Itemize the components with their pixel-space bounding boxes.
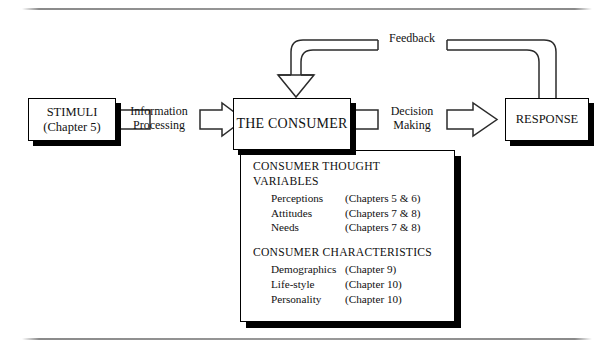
label-info-line2: Processing xyxy=(133,118,185,132)
item-name: Attitudes xyxy=(271,206,345,221)
label-decision-line2: Making xyxy=(393,118,430,132)
list-item: Life-style (Chapter 10) xyxy=(271,277,454,292)
label-information-processing: Information Processing xyxy=(122,104,196,133)
node-the-consumer-label: THE CONSUMER xyxy=(237,116,348,133)
label-feedback: Feedback xyxy=(381,31,443,45)
diagram-canvas: STIMULI (Chapter 5) THE CONSUMER RESPONS… xyxy=(0,0,610,350)
node-stimuli[interactable]: STIMULI (Chapter 5) xyxy=(28,98,116,141)
list-item: Perceptions (Chapters 5 & 6) xyxy=(271,191,454,206)
item-chapters: (Chapters 5 & 6) xyxy=(345,191,421,206)
list-item: Needs (Chapters 7 & 8) xyxy=(271,220,454,235)
item-name: Needs xyxy=(271,220,345,235)
label-decision-making: Decision Making xyxy=(381,104,443,133)
node-stimuli-chapter: (Chapter 5) xyxy=(43,120,100,135)
section-thought-variables-title-line1: CONSUMER THOUGHT xyxy=(253,160,454,175)
item-chapters: (Chapter 10) xyxy=(345,277,402,292)
section-spacer xyxy=(241,235,454,246)
node-response-label: RESPONSE xyxy=(516,112,579,127)
section-characteristics-title: CONSUMER CHARACTERISTICS xyxy=(253,246,454,261)
item-chapters: (Chapters 7 & 8) xyxy=(345,220,421,235)
node-the-consumer[interactable]: THE CONSUMER xyxy=(233,98,351,150)
item-chapters: (Chapter 9) xyxy=(345,262,396,277)
list-item: Personality (Chapter 10) xyxy=(271,292,454,307)
item-name: Demographics xyxy=(271,262,345,277)
list-item: Demographics (Chapter 9) xyxy=(271,262,454,277)
item-name: Perceptions xyxy=(271,191,345,206)
section-thought-variables-title-line2: VARIABLES xyxy=(253,175,454,190)
consumer-detail-panel[interactable]: CONSUMER THOUGHT VARIABLES Perceptions (… xyxy=(240,150,455,322)
feedback-arrow xyxy=(278,40,556,98)
node-response[interactable]: RESPONSE xyxy=(505,98,589,141)
label-info-line1: Information xyxy=(130,104,187,118)
list-item: Attitudes (Chapters 7 & 8) xyxy=(271,206,454,221)
node-stimuli-title: STIMULI xyxy=(43,105,100,120)
characteristics-list: Demographics (Chapter 9) Life-style (Cha… xyxy=(271,262,454,306)
item-name: Life-style xyxy=(271,277,345,292)
item-chapters: (Chapters 7 & 8) xyxy=(345,206,421,221)
thought-variables-list: Perceptions (Chapters 5 & 6) Attitudes (… xyxy=(271,191,454,235)
label-decision-line1: Decision xyxy=(391,104,434,118)
item-chapters: (Chapter 10) xyxy=(345,292,402,307)
item-name: Personality xyxy=(271,292,345,307)
